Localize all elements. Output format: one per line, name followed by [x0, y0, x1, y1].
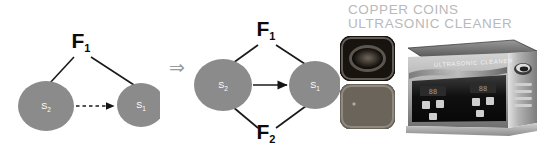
thumbnail-after — [340, 84, 395, 129]
device-button-set[interactable] — [422, 101, 430, 109]
edge-f1-to-s2 — [49, 57, 74, 84]
display-right-value: 88 — [479, 85, 487, 93]
device-button-temp[interactable] — [472, 98, 480, 106]
two-force-diagram-panel: S2 S1 F1 F2 — [190, 0, 340, 144]
edge-f2-to-s1 — [276, 106, 306, 128]
display-left-value: 88 — [429, 88, 437, 96]
force-label-f1: F1 — [257, 17, 276, 42]
vent-slot-1 — [514, 83, 532, 86]
single-force-diagram-panel: S2 S1 F1 — [0, 0, 160, 144]
edge-f2-to-s2 — [233, 107, 258, 128]
product-title-line2: ULTRASONIC CLEANER — [348, 17, 512, 31]
device-button-power[interactable] — [429, 113, 437, 120]
device-handle-hole — [520, 67, 528, 72]
vent-slot-3 — [514, 97, 532, 100]
edge-f1-to-s1 — [276, 45, 305, 64]
vent-slot-4 — [514, 104, 532, 107]
ultrasonic-cleaner-device: ULTRASONIC CLEANER CD-4800 88 88 — [396, 31, 543, 139]
single-force-diagram-svg: S2 S1 F1 — [0, 0, 160, 144]
device-button-time[interactable] — [436, 100, 444, 108]
two-force-diagram-svg: S2 S1 F1 F2 — [190, 0, 340, 144]
device-button-start[interactable] — [486, 97, 494, 105]
force-label-f2: F2 — [257, 120, 276, 144]
device-button-degas[interactable] — [476, 110, 484, 117]
thumbnail-after-image — [340, 84, 395, 129]
edge-f1-to-s1 — [91, 57, 134, 85]
force-label-f1: F1 — [72, 29, 91, 54]
figure-screenshot: S2 S1 F1 ⇒ — [0, 0, 543, 144]
product-title-line1: COPPER COINS — [348, 2, 459, 17]
thumbnail-before — [340, 36, 395, 81]
thumbnail-before-image — [340, 36, 395, 81]
edge-f1-to-s2 — [233, 45, 258, 63]
vent-slot-2 — [514, 90, 532, 93]
product-photo-panel: COPPER COINS ULTRASONIC CLEANER — [340, 0, 543, 144]
product-title: COPPER COINS ULTRASONIC CLEANER — [348, 3, 512, 31]
